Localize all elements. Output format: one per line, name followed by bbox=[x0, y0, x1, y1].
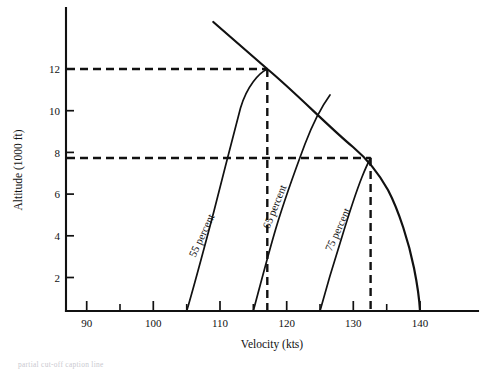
chart-svg: 2 4 6 8 10 12 90 100 110 120 130 bbox=[0, 0, 485, 370]
y-ticklabel-10: 10 bbox=[49, 105, 61, 117]
y-axis-ticks bbox=[66, 69, 74, 278]
y-ticklabel-4: 4 bbox=[55, 230, 61, 242]
caption-strip: partial cut-off caption line bbox=[0, 359, 485, 370]
curve-55-percent bbox=[187, 69, 268, 311]
envelope-curve bbox=[213, 22, 420, 311]
curve-label-65-percent: 65 percent bbox=[260, 183, 288, 230]
x-ticklabel-140: 140 bbox=[412, 317, 429, 329]
y-axis-ticklabels: 2 4 6 8 10 12 bbox=[49, 63, 61, 284]
curve-65-percent bbox=[253, 95, 330, 311]
y-ticklabel-6: 6 bbox=[55, 188, 61, 200]
axes bbox=[66, 8, 478, 311]
x-ticklabel-130: 130 bbox=[345, 317, 362, 329]
x-ticklabel-90: 90 bbox=[81, 317, 93, 329]
x-ticklabel-110: 110 bbox=[212, 317, 229, 329]
y-ticklabel-2: 2 bbox=[55, 272, 61, 284]
x-ticklabel-120: 120 bbox=[278, 317, 295, 329]
caption-faint-line: partial cut-off caption line bbox=[0, 359, 485, 370]
x-axis-ticklabels: 90 100 110 120 130 140 bbox=[81, 317, 429, 329]
x-axis-title: Velocity (kts) bbox=[241, 338, 303, 351]
guide-7400ft bbox=[67, 158, 371, 311]
y-axis-title: Altitude (1000 ft) bbox=[12, 129, 25, 210]
guide-12000ft bbox=[67, 69, 267, 311]
y-ticklabel-8: 8 bbox=[55, 147, 61, 159]
curve-label-55-percent: 55 percent bbox=[186, 212, 216, 259]
curve-label-75-percent: 75 percent bbox=[322, 206, 352, 253]
x-ticklabel-100: 100 bbox=[145, 317, 162, 329]
y-ticklabel-12: 12 bbox=[49, 63, 60, 75]
performance-chart-figure: 2 4 6 8 10 12 90 100 110 120 130 bbox=[0, 0, 485, 370]
